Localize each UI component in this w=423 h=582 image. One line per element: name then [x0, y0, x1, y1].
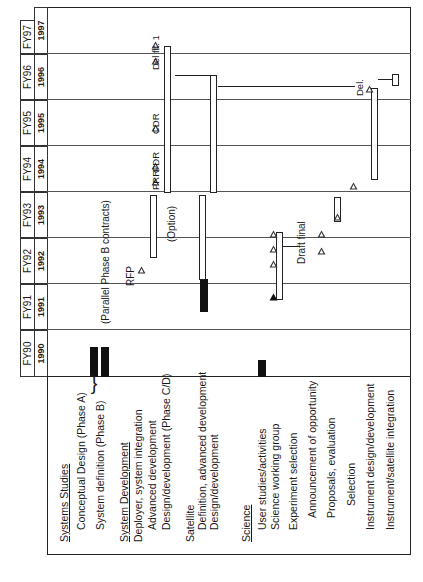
connector-line [282, 246, 300, 247]
bar-design-development-cd [164, 46, 171, 193]
annotation-option: (Option) [166, 206, 177, 242]
row-label: Proposals, evaluation [325, 418, 337, 518]
row-label: Instrument/satellite integration [384, 390, 396, 530]
section-science: Science [240, 505, 252, 542]
milestone-rfp-icon [138, 267, 146, 274]
row-label: Design/development [208, 434, 220, 530]
section-satellite: Satellite [184, 505, 196, 542]
row-label: Experiment selection [287, 433, 299, 530]
milestone-instrument-del-icon [366, 86, 374, 93]
year-header-cell: 1994 [34, 146, 48, 192]
annotation-parallel-contracts: (Parallel Phase B contracts) [100, 200, 111, 324]
fy-header-cell: FY90 [20, 330, 35, 377]
row-label: User studies/activities [256, 428, 268, 530]
row-label: Deployer, system integration [132, 410, 144, 542]
year-gridline [47, 329, 411, 330]
milestone-selection-icon [350, 183, 358, 190]
annotation-cdr: CDR [150, 113, 161, 134]
year-gridline [47, 99, 411, 100]
milestone-draft-icon [318, 248, 326, 255]
annotation-pdr: PDR [150, 152, 161, 172]
bar-satellite-definition [200, 279, 208, 312]
connector-line [378, 79, 392, 80]
year-header-cell: 1992 [34, 238, 48, 284]
year-header-cell: 1990 [34, 330, 48, 377]
bar-advanced-development [150, 195, 157, 258]
row-label: System definition (Phase B) [94, 400, 106, 530]
fy-header-cell: FY93 [20, 192, 35, 238]
bar-instrument-design [371, 88, 378, 180]
year-header-cell: 1991 [34, 284, 48, 330]
row-label: Announcement of opportunity [306, 381, 318, 518]
row-label: Science working group [269, 424, 281, 530]
row-label: Conceptual Design (Phase A) [75, 392, 87, 530]
connector-line [175, 75, 211, 76]
bar-system-definition [101, 347, 109, 377]
fy-header-cell: FY97 [20, 20, 35, 54]
section-systems-studies: Systems Studies [58, 464, 70, 542]
year-gridline [47, 145, 411, 146]
row-label: Definition, advanced development [196, 372, 208, 530]
milestone-swg-3-icon [270, 231, 278, 238]
connector-line [218, 86, 355, 87]
section-system-development: System Development [118, 442, 130, 542]
year-gridline [47, 191, 411, 192]
year-header-cell: 1995 [34, 100, 48, 146]
bar-satellite-design-2 [210, 75, 217, 193]
bar-satellite-design-1 [199, 195, 206, 280]
fy-header-cell: FY96 [20, 54, 35, 100]
milestone-swg-1-icon [270, 261, 278, 268]
annotation-del: Del. [354, 79, 365, 96]
row-label: Design/development (Phase C/D) [160, 374, 172, 530]
annotation-del-flt1: Del flt. 1 [150, 35, 161, 70]
fy-header-cell: FY94 [20, 146, 35, 192]
row-label: Instrument design/development [364, 383, 376, 530]
milestone-swg-2-icon [270, 246, 278, 253]
fy-header-cell: FY91 [20, 284, 35, 330]
milestone-final-icon [318, 231, 326, 238]
annotation-prr: PRR [150, 170, 161, 190]
year-header-cell: 1996 [34, 54, 48, 100]
row-label: Advanced development [146, 420, 158, 530]
fy-header-cell: FY95 [20, 100, 35, 146]
fy-header-cell: FY92 [20, 238, 35, 284]
year-header-cell: 1993 [34, 192, 48, 238]
year-header-cell: 1997 [34, 7, 48, 54]
annotation-rfp: RFP [125, 266, 136, 286]
year-gridline [47, 53, 411, 54]
gantt-chart: FY90 FY91 FY92 FY93 FY94 FY95 FY96 FY97 … [0, 0, 423, 582]
bar-user-studies [258, 360, 266, 377]
row-label: Selection [345, 463, 357, 506]
milestone-proposals-icon [334, 214, 342, 221]
brace-icon: } [91, 373, 98, 393]
bar-instrument-integration [392, 74, 399, 86]
annotation-draft-final: Draft final [296, 221, 307, 264]
milestone-swg-start-icon [270, 294, 278, 301]
